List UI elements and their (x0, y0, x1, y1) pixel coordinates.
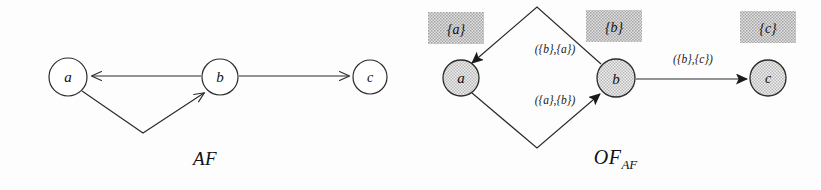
af-node-c-label: c (367, 70, 374, 85)
ofaf-set-box-a: {a} (428, 12, 484, 44)
af-node-b[interactable]: b (202, 59, 238, 95)
ofaf-set-box-a-label: {a} (447, 22, 466, 37)
ofaf-edge-a-to-b-label: ({a},{b}) (535, 94, 576, 107)
af-node-a-label: a (64, 69, 72, 85)
ofaf-edge-b-to-a: ({b},{a}) (472, 7, 601, 64)
panel-ofaf: ({b},{a}) ({a},{b}) ({b},{c}) {a} {b} (410, 0, 821, 190)
ofaf-edge-b-to-c-label: ({b},{c}) (673, 53, 713, 66)
af-edge-a-to-b-path (82, 91, 204, 133)
ofaf-node-c[interactable]: c (750, 60, 786, 96)
ofaf-node-c-label: c (765, 71, 772, 86)
af-edge-a-to-b (82, 91, 204, 133)
ofaf-edge-b-to-a-path (472, 7, 601, 64)
ofaf-node-a-label: a (457, 70, 465, 86)
ofaf-set-box-b: {b} (586, 10, 642, 42)
figure-container: a b c AF (0, 0, 821, 190)
af-node-a[interactable]: a (49, 58, 87, 96)
ofaf-node-b[interactable]: b (597, 59, 635, 97)
ofaf-set-box-b-label: {b} (605, 20, 624, 35)
caption-ofaf-subscript: AF (621, 157, 637, 172)
ofaf-node-b-label: b (612, 71, 620, 87)
ofaf-edge-a-to-b: ({a},{b}) (472, 93, 600, 148)
caption-ofaf: OFAF (410, 146, 821, 173)
panel-af: a b c AF (0, 0, 410, 190)
caption-af: AF (0, 148, 410, 170)
af-node-c[interactable]: c (353, 60, 387, 94)
ofaf-node-a[interactable]: a (443, 60, 479, 96)
caption-ofaf-main: OF (594, 146, 622, 168)
ofaf-set-box-c-label: {c} (759, 21, 777, 36)
ofaf-set-box-c: {c} (740, 11, 796, 43)
ofaf-edge-b-to-a-label: ({b},{a}) (535, 43, 576, 56)
ofaf-edge-b-to-c: ({b},{c}) (636, 53, 747, 79)
af-node-b-label: b (216, 69, 224, 85)
